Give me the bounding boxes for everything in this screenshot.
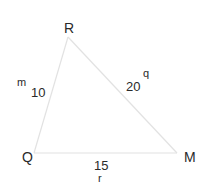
side-length-qm: 15 xyxy=(94,158,108,173)
side-name-q: q xyxy=(143,67,149,79)
side-length-rm: 20 xyxy=(126,79,140,94)
side-length-qr: 10 xyxy=(31,85,45,100)
vertex-label-q: Q xyxy=(22,149,33,165)
side-name-m: m xyxy=(17,76,26,88)
side-name-r: r xyxy=(98,172,102,184)
vertex-label-m: M xyxy=(184,149,196,165)
side-rm xyxy=(68,37,177,153)
vertex-label-r: R xyxy=(64,20,74,36)
triangle-diagram: R Q M m 10 20 q 15 r xyxy=(0,0,214,194)
